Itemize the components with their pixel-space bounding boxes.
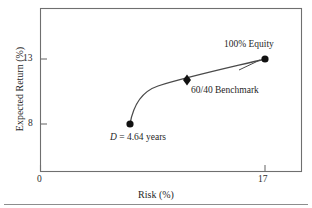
annotation-duration-symbol: D [110, 132, 117, 142]
x-axis-title: Risk (%) [0, 190, 312, 200]
risk-return-chart: 13 8 0 17 Risk (%) Expected Return (%) 1… [0, 0, 312, 208]
annotation-duration: D = 4.64 years [110, 133, 166, 143]
annotation-benchmark: 60/40 Benchmark [191, 86, 259, 96]
y-axis-title: Expected Return (%) [15, 24, 25, 154]
x-axis-tick-label-17: 17 [258, 175, 268, 185]
plot-frame [41, 9, 302, 172]
annotation-duration-value: = 4.64 years [117, 132, 166, 142]
data-point-benchmark [183, 75, 191, 86]
annotation-equity: 100% Equity [224, 40, 274, 50]
footer-divider [4, 204, 308, 205]
x-axis-tick-label-0: 0 [37, 175, 42, 185]
data-point-duration [126, 120, 133, 127]
data-point-equity [261, 55, 268, 62]
y-axis-tick-label-8: 8 [28, 119, 33, 129]
